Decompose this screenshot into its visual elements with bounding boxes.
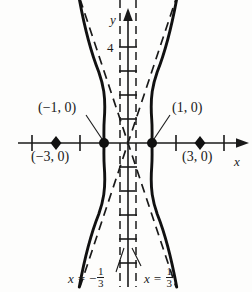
marker-vertex-right — [147, 138, 157, 148]
label-line-left-prefix: x = — [68, 271, 86, 286]
label-line-right-fraction: 13 — [166, 266, 174, 289]
label-line-right-numerator: 1 — [166, 266, 174, 277]
label-line-right: x = 13 — [144, 266, 174, 289]
y-axis-label: y — [110, 13, 116, 26]
label-vertex-left: (−1, 0) — [38, 101, 76, 115]
marker-focus-right — [195, 136, 206, 150]
graph-canvas — [0, 0, 252, 292]
label-vertex-right: (1, 0) — [172, 101, 202, 115]
leader-line-vertex-left — [86, 115, 102, 139]
label-line-left-fraction: 13 — [97, 266, 105, 289]
leader-line-vertex-right — [154, 115, 170, 139]
label-line-left: x = −13 — [68, 266, 105, 289]
y-axis — [119, 8, 137, 287]
label-focus-left: (−3, 0) — [31, 150, 69, 164]
label-line-left-denominator: 3 — [97, 277, 105, 289]
marker-vertex-left — [99, 138, 109, 148]
marker-focus-left — [51, 136, 62, 150]
y-tick-label-4: 4 — [107, 41, 114, 54]
label-line-left-sign: − — [89, 271, 96, 286]
label-focus-right: (3, 0) — [182, 150, 212, 164]
label-line-right-prefix: x = — [144, 271, 162, 286]
label-line-right-denominator: 3 — [166, 277, 174, 289]
hyperbola-figure: y x 4 (−1, 0) (1, 0) (−3, 0) (3, 0) x = … — [0, 0, 252, 292]
label-line-left-numerator: 1 — [97, 266, 105, 277]
x-axis-label: x — [234, 155, 240, 168]
